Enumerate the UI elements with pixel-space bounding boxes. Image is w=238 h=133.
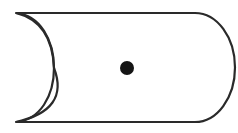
diagram-canvas <box>0 0 238 133</box>
center-dot <box>120 61 134 75</box>
cylinder-diagram <box>0 0 238 133</box>
